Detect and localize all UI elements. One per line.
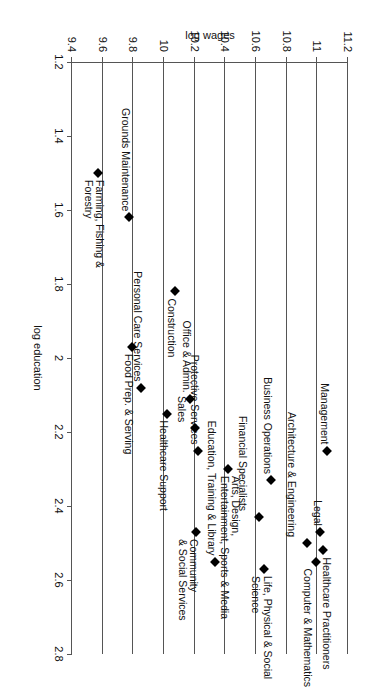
data-point-label: Life, Physical & Social Science xyxy=(250,576,273,679)
data-point-label: Office & Admin. xyxy=(181,321,193,393)
y-tick xyxy=(255,57,256,62)
y-tick-label: 9.6 xyxy=(97,0,109,52)
x-tick-label: 1.8 xyxy=(53,276,65,291)
gridline xyxy=(286,62,287,654)
y-tick xyxy=(286,57,287,62)
y-tick-label: 10 xyxy=(158,0,170,52)
gridlines xyxy=(72,62,348,654)
data-point-label: Construction xyxy=(165,298,177,357)
data-point-label: Community & Social Services xyxy=(176,539,199,621)
y-tick xyxy=(347,57,348,62)
x-tick xyxy=(67,284,72,285)
x-tick-label: 1.2 xyxy=(53,54,65,69)
data-point-label: Grounds Maintenance xyxy=(119,108,131,211)
data-point-label: Healthcare Practitioners xyxy=(321,557,333,669)
x-tick-label: 2.2 xyxy=(53,424,65,439)
data-point-label: Farming, Fishing & Forestry xyxy=(82,180,105,268)
y-tick xyxy=(224,57,225,62)
x-tick-label: 2.4 xyxy=(53,498,65,513)
x-tick xyxy=(67,506,72,507)
data-point-label: Business Operations xyxy=(262,377,274,474)
x-tick xyxy=(67,580,72,581)
y-tick xyxy=(316,57,317,62)
x-tick xyxy=(67,358,72,359)
y-tick xyxy=(102,57,103,62)
y-tick-label: 10.6 xyxy=(250,0,262,52)
data-point-label: Legal xyxy=(312,500,324,526)
x-tick-label: 2 xyxy=(53,355,65,361)
gridline xyxy=(255,62,256,654)
x-tick-label: 1.6 xyxy=(53,202,65,217)
y-tick-label: 10.8 xyxy=(281,0,293,52)
data-point-label: Healthcare Support xyxy=(158,421,170,511)
x-tick xyxy=(67,136,72,137)
data-point-label: Management xyxy=(318,383,330,444)
y-axis-title: log wages xyxy=(175,29,245,41)
x-tick xyxy=(67,62,72,63)
x-tick xyxy=(67,210,72,211)
y-tick xyxy=(132,57,133,62)
data-point-label: Education, Training & Library xyxy=(205,421,217,556)
x-tick xyxy=(67,654,72,655)
y-tick-label: 9.4 xyxy=(66,0,78,52)
data-point-label: Computer & Mathematics xyxy=(301,569,313,687)
data-point-label: Sales xyxy=(175,396,187,422)
gridline xyxy=(347,62,348,654)
y-tick-label: 10.2 xyxy=(189,0,201,52)
y-tick xyxy=(71,57,72,62)
x-tick-label: 2.6 xyxy=(53,572,65,587)
y-tick-label: 10.4 xyxy=(219,0,231,52)
y-tick-label: 11 xyxy=(311,0,323,52)
data-point-label: Food Prep. & Serving xyxy=(122,354,134,454)
y-tick-label: 9.8 xyxy=(127,0,139,52)
y-tick xyxy=(163,57,164,62)
y-tick-label: 11.2 xyxy=(342,0,354,52)
gridline xyxy=(163,62,164,654)
x-tick-label: 2.8 xyxy=(53,646,65,661)
x-axis-title: log education xyxy=(32,325,44,390)
y-tick xyxy=(194,57,195,62)
gridline xyxy=(102,62,103,654)
x-tick-label: 1.4 xyxy=(53,128,65,143)
data-point-label: Arts, Design, Entertainment, Sports & Me… xyxy=(218,476,241,619)
data-point-label: Architecture & Engineering xyxy=(285,412,297,537)
y-axis-line xyxy=(72,62,348,63)
x-tick xyxy=(67,432,72,433)
